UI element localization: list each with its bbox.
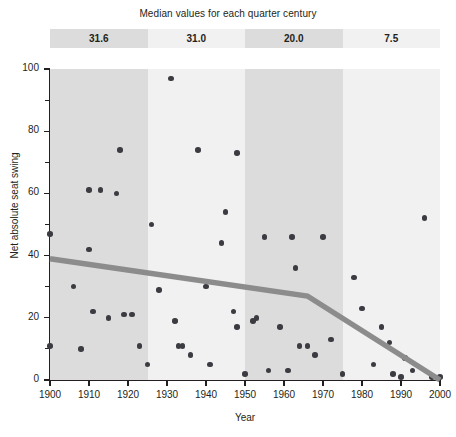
x-tick-label: 1970 xyxy=(301,389,345,400)
x-tick xyxy=(283,381,284,386)
median-band-strip: 31.631.020.07.5 xyxy=(50,29,440,48)
x-tick xyxy=(88,381,89,386)
y-tick-minor xyxy=(45,224,49,225)
x-tick xyxy=(49,381,50,386)
x-tick-label: 1990 xyxy=(379,389,423,400)
y-tick-minor xyxy=(45,100,49,101)
y-axis-line xyxy=(49,69,50,381)
x-tick xyxy=(400,381,401,386)
plot-band-0 xyxy=(50,69,148,380)
scatter-point xyxy=(90,309,96,315)
scatter-point xyxy=(106,315,112,321)
y-tick-label: 0 xyxy=(0,373,39,384)
scatter-point xyxy=(390,371,396,377)
x-tick xyxy=(127,381,128,386)
median-band-2: 20.0 xyxy=(245,29,343,48)
chart-title: Median values for each quarter century xyxy=(0,8,456,19)
scatter-point xyxy=(242,371,248,377)
median-band-label: 31.6 xyxy=(89,33,108,44)
scatter-point xyxy=(47,231,53,237)
x-tick-label: 1980 xyxy=(340,389,384,400)
y-tick xyxy=(44,131,50,132)
x-axis-title: Year xyxy=(50,412,440,423)
median-band-1: 31.0 xyxy=(148,29,246,48)
plot-area xyxy=(50,69,440,380)
scatter-point xyxy=(195,147,201,153)
scatter-point xyxy=(188,352,194,358)
scatter-point xyxy=(328,337,334,343)
x-tick xyxy=(361,381,362,386)
median-band-0: 31.6 xyxy=(50,29,148,48)
scatter-point xyxy=(86,247,92,253)
scatter-point xyxy=(312,352,318,358)
plot-band-3 xyxy=(343,69,441,380)
scatter-point xyxy=(156,287,162,293)
scatter-point xyxy=(289,234,295,240)
scatter-point xyxy=(262,234,268,240)
y-tick-label: 100 xyxy=(0,62,39,73)
y-tick-minor xyxy=(45,162,49,163)
x-tick xyxy=(322,381,323,386)
chart-root: Median values for each quarter century 3… xyxy=(0,0,456,437)
scatter-point xyxy=(320,234,326,240)
scatter-point xyxy=(402,355,408,361)
scatter-point xyxy=(78,346,84,352)
scatter-point xyxy=(86,187,92,193)
scatter-point xyxy=(168,76,174,82)
scatter-point xyxy=(180,343,186,349)
x-tick xyxy=(244,381,245,386)
y-tick-label: 20 xyxy=(0,311,39,322)
x-tick-label: 1920 xyxy=(106,389,150,400)
x-tick-label: 1940 xyxy=(184,389,228,400)
x-tick-label: 1960 xyxy=(262,389,306,400)
scatter-point xyxy=(137,343,143,349)
median-band-3: 7.5 xyxy=(343,29,441,48)
scatter-point xyxy=(340,371,346,377)
scatter-point xyxy=(351,275,357,281)
y-tick xyxy=(44,193,50,194)
scatter-point xyxy=(398,374,404,380)
scatter-point xyxy=(359,306,365,312)
scatter-point xyxy=(437,374,443,380)
plot-band-1 xyxy=(148,69,246,380)
scatter-point xyxy=(297,343,303,349)
scatter-point xyxy=(172,318,178,324)
x-tick xyxy=(166,381,167,386)
scatter-point xyxy=(117,147,123,153)
x-tick xyxy=(205,381,206,386)
y-tick xyxy=(44,255,50,256)
y-tick xyxy=(44,68,50,69)
y-tick-label: 80 xyxy=(0,124,39,135)
x-tick xyxy=(439,381,440,386)
y-tick xyxy=(44,317,50,318)
scatter-point xyxy=(234,150,240,156)
scatter-point xyxy=(277,324,283,330)
x-tick-label: 1900 xyxy=(28,389,72,400)
plot-band-2 xyxy=(245,69,343,380)
scatter-point xyxy=(223,209,229,215)
scatter-point xyxy=(254,315,260,321)
y-tick-minor xyxy=(45,286,49,287)
y-axis-title: Net absolute seat swing xyxy=(9,126,20,286)
x-tick-label: 1910 xyxy=(67,389,111,400)
x-tick-label: 1950 xyxy=(223,389,267,400)
scatter-point xyxy=(207,362,213,368)
scatter-point xyxy=(429,374,435,380)
y-tick-label: 60 xyxy=(0,186,39,197)
scatter-point xyxy=(305,343,311,349)
median-band-label: 20.0 xyxy=(284,33,303,44)
median-band-label: 7.5 xyxy=(384,33,398,44)
y-tick-label: 40 xyxy=(0,249,39,260)
x-tick-label: 2000 xyxy=(418,389,456,400)
median-band-label: 31.0 xyxy=(187,33,206,44)
x-tick-label: 1930 xyxy=(145,389,189,400)
scatter-point xyxy=(47,343,53,349)
scatter-point xyxy=(234,324,240,330)
